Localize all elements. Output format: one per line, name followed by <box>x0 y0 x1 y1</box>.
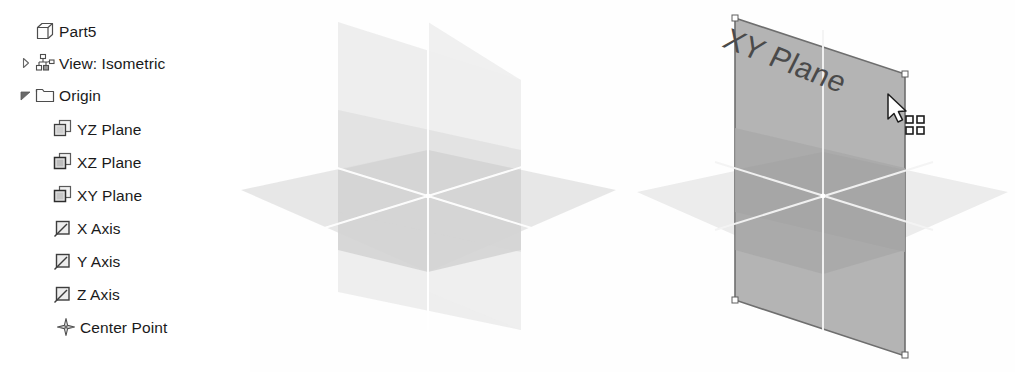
center-point-icon <box>55 316 77 338</box>
viewport-origin-planes-xy-highlighted[interactable] <box>625 0 1015 372</box>
viewport-origin-planes-unselected[interactable] <box>238 0 628 372</box>
plane-icon <box>52 151 74 173</box>
view-hierarchy-icon <box>34 52 56 74</box>
handle-top-right <box>902 71 908 77</box>
tree-item-label: X Axis <box>77 220 121 237</box>
handle-bottom-left <box>732 297 738 303</box>
origin-point <box>426 194 431 199</box>
handle-top-left <box>732 15 738 21</box>
tree-item-xy-plane[interactable]: XY Plane <box>52 182 142 208</box>
tree-item-view-isometric[interactable]: View: Isometric <box>18 50 165 76</box>
handle-bottom-right <box>902 352 908 358</box>
twisty-placeholder <box>18 23 34 39</box>
tree-item-label: XZ Plane <box>77 154 142 171</box>
plane-icon <box>52 118 74 140</box>
tree-item-label: Y Axis <box>77 253 120 270</box>
tree-item-part5[interactable]: Part5 <box>18 18 97 44</box>
tree-item-label: Z Axis <box>77 286 120 303</box>
inventor-origin-planes-screen: Part5 View: Isometric <box>0 0 1015 372</box>
axis-icon <box>52 250 74 272</box>
tree-item-x-axis[interactable]: X Axis <box>52 215 121 241</box>
tree-item-xz-plane[interactable]: XZ Plane <box>52 149 142 175</box>
tree-item-yz-plane[interactable]: YZ Plane <box>52 116 142 142</box>
folder-icon <box>34 84 56 106</box>
axis-icon <box>52 283 74 305</box>
tree-item-center-point[interactable]: Center Point <box>55 314 167 340</box>
chevron-down-icon[interactable] <box>18 87 34 103</box>
model-browser-panel: Part5 View: Isometric <box>0 0 250 372</box>
origin-point <box>821 194 826 199</box>
tree-item-origin[interactable]: Origin <box>18 82 101 108</box>
tree-item-label: Origin <box>59 87 101 104</box>
tree-item-label: View: Isometric <box>59 55 165 72</box>
tree-item-label: Center Point <box>80 319 167 336</box>
part-cube-icon <box>34 20 56 42</box>
tree-item-z-axis[interactable]: Z Axis <box>52 281 120 307</box>
tree-item-label: YZ Plane <box>77 121 142 138</box>
tree-item-y-axis[interactable]: Y Axis <box>52 248 120 274</box>
axis-icon <box>52 217 74 239</box>
plane-icon <box>52 184 74 206</box>
tree-item-label: Part5 <box>59 23 97 40</box>
tree-item-label: XY Plane <box>77 187 142 204</box>
chevron-right-icon[interactable] <box>18 55 34 71</box>
